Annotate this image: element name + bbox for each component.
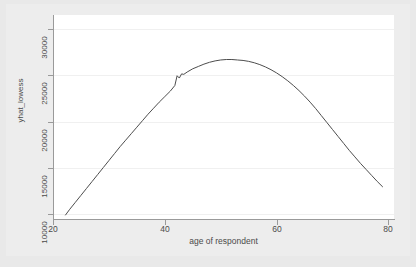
y-tick-label-25000: 25000 xyxy=(40,74,49,114)
y-axis-title: yhat_lowess xyxy=(16,61,25,141)
y-tick-30000 xyxy=(48,29,53,30)
figure: yhat_lowess 1000015000200002500030000 20… xyxy=(0,0,416,267)
x-tick-label-40: 40 xyxy=(145,224,185,234)
x-axis-title: age of respondent xyxy=(53,236,394,246)
series-line-yhat-lowess xyxy=(65,60,383,216)
y-tick-label-20000: 20000 xyxy=(40,121,49,161)
lowess-curve xyxy=(53,15,394,219)
x-tick-label-20: 20 xyxy=(33,224,73,234)
y-axis-line xyxy=(53,15,54,220)
y-tick-10000 xyxy=(48,214,53,215)
x-tick-label-80: 80 xyxy=(368,224,408,234)
y-tick-label-30000: 30000 xyxy=(40,28,49,68)
y-tick-25000 xyxy=(48,75,53,76)
plot-area xyxy=(53,15,394,219)
y-tick-label-15000: 15000 xyxy=(40,167,49,207)
y-tick-15000 xyxy=(48,168,53,169)
x-tick-label-60: 60 xyxy=(257,224,297,234)
y-tick-20000 xyxy=(48,122,53,123)
x-axis-line xyxy=(53,219,395,220)
